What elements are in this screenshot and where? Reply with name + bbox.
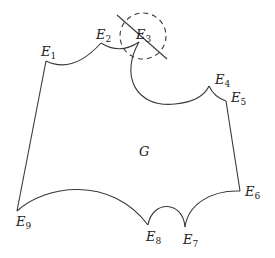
edge-e4-e5 — [209, 86, 226, 101]
label-e3: E3 — [135, 27, 152, 44]
edge-e8-e9 — [17, 189, 148, 225]
label-e7: E7 — [182, 232, 199, 249]
edge-e3-e4 — [131, 42, 209, 104]
region-label: G — [139, 144, 149, 159]
edge-e6-e7 — [185, 191, 240, 227]
label-e2: E2 — [95, 27, 111, 44]
label-e1: E1 — [40, 44, 56, 61]
domain-diagram: E1 E2 E3 E4 E5 E6 E7 E8 E9 G — [0, 0, 275, 258]
label-e4: E4 — [214, 72, 231, 89]
label-e6: E6 — [244, 184, 261, 201]
label-e9: E9 — [15, 214, 32, 231]
label-e5: E5 — [230, 90, 247, 107]
edge-e9-e1 — [17, 61, 46, 211]
label-e8: E8 — [145, 229, 162, 246]
edge-e5-e6 — [226, 101, 240, 191]
edge-e7-e8 — [148, 206, 185, 227]
